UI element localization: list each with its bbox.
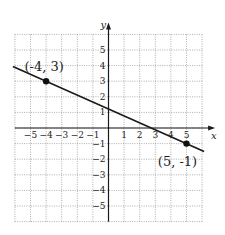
- point-label: (-4, 3): [24, 59, 63, 74]
- point-label: (5, -1): [158, 154, 197, 169]
- point-marker: [43, 78, 49, 84]
- y-axis-arrow-icon: [106, 22, 111, 29]
- y-tick-label: −1: [92, 139, 105, 149]
- x-tick-label: −3: [55, 130, 69, 140]
- y-axis-label: y: [100, 19, 107, 30]
- y-tick-label: −4: [92, 185, 106, 195]
- x-tick-label: 2: [137, 130, 143, 140]
- y-tick-label: 3: [100, 76, 106, 86]
- y-tick-label: −5: [92, 201, 106, 211]
- y-tick-label: 5: [100, 45, 106, 55]
- x-tick-label: −4: [39, 130, 53, 140]
- x-axis-label: x: [211, 130, 217, 141]
- y-tick-label: 4: [100, 61, 106, 71]
- x-tick-label: 1: [121, 130, 127, 140]
- x-tick-label: −5: [24, 130, 38, 140]
- y-tick-label: −2: [92, 154, 105, 164]
- coordinate-plane: x y −5−4−3−2−11234554321−1−2−3−4−5 (-4, …: [0, 0, 225, 235]
- x-tick-label: 5: [184, 130, 190, 140]
- y-tick-label: 1: [100, 107, 106, 117]
- y-tick-label: −3: [92, 170, 106, 180]
- y-tick-label: 2: [100, 92, 106, 102]
- x-tick-label: −2: [71, 130, 84, 140]
- point-marker: [183, 140, 189, 146]
